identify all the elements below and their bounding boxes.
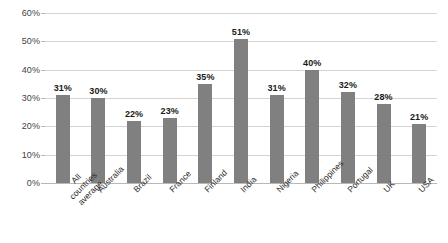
x-label-slot: Nigeria: [259, 186, 295, 243]
bar[interactable]: [91, 98, 105, 183]
bar-group: 35%: [188, 13, 224, 183]
bar-value-label: 28%: [374, 93, 392, 102]
y-axis-label-10: 10%: [0, 150, 40, 159]
x-label-slot: All countries average: [45, 186, 81, 243]
bar-group: 30%: [81, 13, 117, 183]
bar-value-label: 21%: [410, 113, 428, 122]
y-axis-label-0: 0%: [0, 179, 40, 188]
bar[interactable]: [412, 124, 426, 184]
x-label-slot: Finland: [188, 186, 224, 243]
y-axis-label-20: 20%: [0, 122, 40, 131]
y-tick-mark-0: [41, 183, 45, 184]
bar-value-label: 31%: [267, 84, 285, 93]
bar-value-label: 23%: [161, 107, 179, 116]
y-axis-label-60: 60%: [0, 9, 40, 18]
x-label-slot: USA: [401, 186, 437, 243]
bar[interactable]: [341, 92, 355, 183]
bar[interactable]: [163, 118, 177, 183]
bar[interactable]: [127, 121, 141, 183]
x-label-slot: France: [152, 186, 188, 243]
x-label-slot: Brazil: [116, 186, 152, 243]
bar-group: 40%: [294, 13, 330, 183]
plot-area: 31%30%22%23%35%51%31%40%32%28%21%: [45, 13, 437, 183]
x-label-slot: India: [223, 186, 259, 243]
bar[interactable]: [56, 95, 70, 183]
bar-value-label: 32%: [339, 81, 357, 90]
bar-group: 22%: [116, 13, 152, 183]
bar-value-label: 40%: [303, 59, 321, 68]
bar-group: 32%: [330, 13, 366, 183]
bar-group: 21%: [401, 13, 437, 183]
bar-group: 51%: [223, 13, 259, 183]
bar[interactable]: [377, 104, 391, 183]
bar-value-label: 51%: [232, 28, 250, 37]
bar-value-label: 31%: [54, 84, 72, 93]
x-label-slot: UK: [366, 186, 402, 243]
bar[interactable]: [234, 39, 248, 184]
y-axis-label-40: 40%: [0, 65, 40, 74]
bar-group: 23%: [152, 13, 188, 183]
bar-group: 31%: [45, 13, 81, 183]
x-axis-category-labels: All countries averageAustraliaBrazilFran…: [45, 186, 437, 243]
y-axis-label-30: 30%: [0, 94, 40, 103]
bar-group: 31%: [259, 13, 295, 183]
bar[interactable]: [270, 95, 284, 183]
x-label-slot: Portugal: [330, 186, 366, 243]
x-label-slot: Philippines: [294, 186, 330, 243]
bar-group: 28%: [366, 13, 402, 183]
bar[interactable]: [305, 70, 319, 183]
bar-chart: 0%10%20%30%40%50%60% 31%30%22%23%35%51%3…: [0, 0, 448, 243]
y-axis-label-50: 50%: [0, 37, 40, 46]
bar-value-label: 22%: [125, 110, 143, 119]
bar-value-label: 35%: [196, 73, 214, 82]
bar-value-label: 30%: [89, 87, 107, 96]
x-label-slot: Australia: [81, 186, 117, 243]
bar[interactable]: [198, 84, 212, 183]
